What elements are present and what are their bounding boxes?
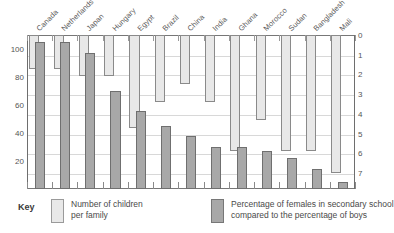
bar-group [128,35,153,189]
axis-tick [27,182,28,189]
bar-female-secondary-ratio [161,126,171,189]
chart-legend: Key Number of children per family Percen… [18,196,388,230]
bar-female-secondary-ratio [35,42,45,189]
axis-tick [305,182,306,189]
right-axis-tick-label: 1 [358,50,362,59]
bar-children-per-family [205,35,215,102]
axis-tick [52,35,53,41]
axis-tick [178,35,179,41]
right-axis-tick-label: 0 [358,31,362,40]
bar-children-per-family [230,35,240,151]
category-label: Hungary [110,6,137,33]
axis-tick [279,35,280,41]
bar-female-secondary-ratio [60,42,70,189]
bar-group [103,35,128,189]
bars-layer [27,35,355,189]
category-label: Japan [85,12,106,33]
bar-children-per-family [180,35,190,84]
category-label: Sudan [287,11,309,33]
legend-label-children-line1: Number of children [71,199,206,210]
legend-swatch-children [51,199,64,223]
left-axis-tick-label: 100 [11,45,24,54]
category-label: Morocco [262,6,289,33]
bar-group [229,35,254,189]
left-axis-tick-label: 20 [15,157,24,166]
axis-tick [355,35,356,41]
legend-title: Key [18,202,35,212]
axis-tick [27,35,28,41]
axis-tick [103,182,104,189]
right-axis-tick-label: 3 [358,90,362,99]
bar-group [178,35,203,189]
bar-group [254,35,279,189]
left-axis-tick-label: 80 [15,73,24,82]
bar-group [27,35,52,189]
bar-children-per-family [256,35,266,120]
right-axis-tick-label: 4 [358,109,362,118]
bar-group [330,35,355,189]
category-label: India [211,15,229,33]
category-label: Egypt [135,13,155,33]
bar-children-per-family [306,35,316,151]
axis-tick [330,182,331,189]
right-axis-tick-label: 2 [358,70,362,79]
bar-group [204,35,229,189]
bar-female-secondary-ratio [110,91,120,189]
axis-tick [52,182,53,189]
right-axis-tick-label: 6 [358,149,362,158]
category-label: Ghana [236,10,259,33]
category-label: China [186,12,207,33]
axis-tick [178,182,179,189]
bar-group [153,35,178,189]
legend-label-females-line2: compared to the percentage of boys [231,210,394,221]
category-label: Mali [337,17,353,33]
axis-tick [77,35,78,41]
left-axis-tick-label: 40 [15,129,24,138]
category-labels: CanadaNetherlandsJapanHungaryEgyptBrazil… [0,0,394,35]
right-axis-tick-label: 5 [358,129,362,138]
right-axis-tick-label: 7 [358,169,362,178]
axis-tick [355,182,356,189]
bar-children-per-family [281,35,291,151]
bar-group [77,35,102,189]
axis-tick [128,35,129,41]
bar-group [305,35,330,189]
category-label: Canada [35,8,60,33]
left-axis-tick-label: 60 [15,101,24,110]
legend-label-children-line2: per family [71,210,206,221]
chart-container: CanadaNetherlandsJapanHungaryEgyptBrazil… [0,0,394,233]
legend-label-females: Percentage of females in secondary schoo… [231,199,394,221]
bar-female-secondary-ratio [85,53,95,189]
axis-tick [279,182,280,189]
axis-tick [305,35,306,41]
axis-tick [229,182,230,189]
category-label: Brazil [161,13,181,33]
axis-tick [103,35,104,41]
axis-tick [254,182,255,189]
legend-label-children: Number of children per family [71,199,206,221]
axis-tick [254,35,255,41]
axis-tick [153,182,154,189]
axis-tick [330,35,331,41]
bottom-tick-row [27,182,355,190]
axis-tick [204,182,205,189]
axis-tick [77,182,78,189]
axis-tick [204,35,205,41]
axis-tick [153,35,154,41]
legend-label-females-line1: Percentage of females in secondary schoo… [231,199,394,210]
bar-group [52,35,77,189]
bar-group [279,35,304,189]
bar-female-secondary-ratio [136,111,146,189]
bar-children-per-family [155,35,165,102]
bar-children-per-family [331,35,341,173]
top-tick-row [27,35,355,42]
axis-tick [229,35,230,41]
legend-swatch-females [211,199,224,223]
axis-tick [128,182,129,189]
